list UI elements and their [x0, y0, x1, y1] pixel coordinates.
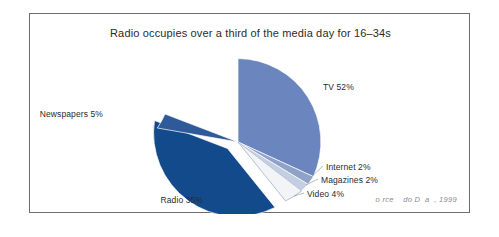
pie-label-video: Video 4%	[307, 189, 344, 199]
pie-label-magazines: Magazines 2%	[321, 175, 378, 185]
pie-label-tv: TV 52%	[323, 82, 354, 92]
pie-label-internet: Internet 2%	[326, 162, 371, 172]
pie-slice-tv[interactable]	[238, 59, 321, 177]
chart-frame: Radio occupies over a third of the media…	[29, 13, 470, 213]
pie-chart: TV 52% Newspapers 5% Internet 2% Magazin…	[30, 14, 471, 214]
source-note: o rce do D a , 1999	[376, 195, 457, 204]
pie-label-radio: Radio 35%	[161, 195, 203, 205]
pie-label-newspapers: Newspapers 5%	[40, 109, 103, 119]
